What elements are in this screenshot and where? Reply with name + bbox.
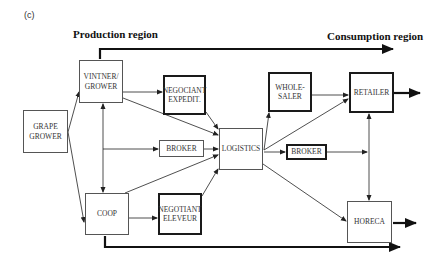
node-horeca: HORECA (347, 201, 392, 243)
node-broker-consumption: BROKER (286, 144, 327, 160)
node-negotiant-eleveur: NEGOTIANT ELEVEUR (158, 193, 202, 235)
node-retailer: RETAILER (349, 72, 394, 113)
node-grape-grower: GRAPE GROWER (23, 110, 68, 153)
node-coop: COOP (85, 193, 129, 235)
node-broker-production: BROKER (159, 140, 204, 157)
node-vintner-grower: VINTNER/ GROWER (79, 60, 123, 103)
node-negociant-expedit: NEGOCIANT EXPEDIT. (163, 75, 206, 115)
node-wholesaler: WHOLE- SALER (268, 72, 312, 112)
node-logistics: LOGISTICS (219, 128, 263, 170)
